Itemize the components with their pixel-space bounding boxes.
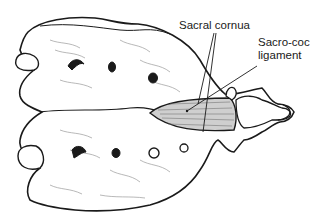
label-sacral-cornua: Sacral cornua: [179, 19, 250, 32]
label-text: Sacral cornua: [179, 19, 250, 31]
left-ala-top: [16, 53, 39, 70]
left-ala-bottom: [18, 145, 43, 169]
label-line-1: Sacro-coc: [258, 36, 310, 49]
label-line-2: ligament: [258, 49, 310, 62]
coccyx: [236, 96, 291, 128]
sacrum-illustration: Sacral cornua Sacro-coc ligament: [0, 0, 310, 224]
label-sacrococcygeal-ligament: Sacro-coc ligament: [258, 36, 310, 62]
sacrum-drawing: [0, 0, 310, 224]
ligament-pointer-dot: [186, 110, 188, 112]
